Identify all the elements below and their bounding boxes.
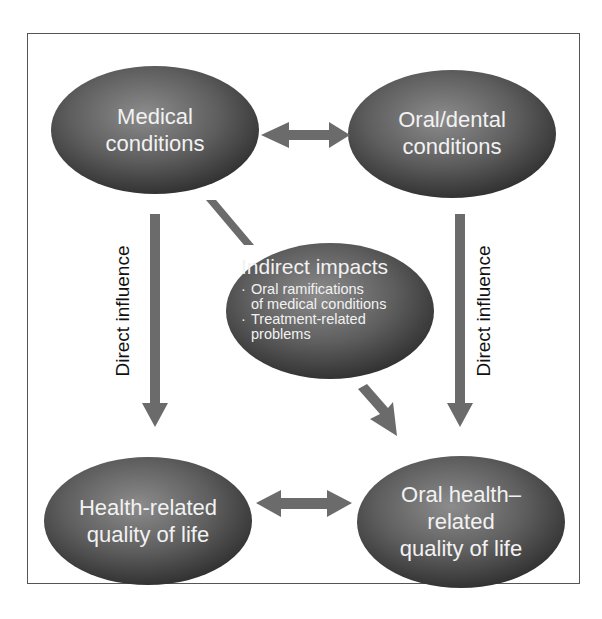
oral-dental-line2: conditions [352,133,552,160]
medical-line2: conditions [55,130,255,157]
bullet-1-line1: Oral ramifications [251,282,431,297]
double-arrow-top [261,122,350,148]
medical-conditions-label: Medical conditions [55,103,255,157]
indirect-impacts-list: Oral ramifications of medical conditions… [241,282,431,342]
hrqol-line1: Health-related [48,494,248,521]
bullet-1-line2: of medical conditions [251,297,431,312]
oral-dental-conditions-label: Oral/dental conditions [352,106,552,160]
ohrqol-line2: related [361,508,561,535]
health-related-qol-label: Health-related quality of life [48,494,248,548]
direct-influence-right-label: Direct influence [473,241,495,381]
indirect-impacts-title: Indirect impacts [241,255,431,279]
indirect-impacts-label: Indirect impacts Oral ramifications of m… [241,255,431,342]
hrqol-line2: quality of life [48,521,248,548]
arrow-direct-influence-left [142,214,168,427]
arrow-direct-influence-right [447,214,473,427]
double-arrow-bottom [256,490,352,517]
bullet-2-line1: Treatment-related [251,312,431,327]
direct-influence-left-label: Direct influence [112,241,134,381]
oral-health-related-qol-label: Oral health– related quality of life [361,481,561,562]
bullet-2-line2: problems [251,327,431,342]
connector-medical-to-indirect [206,200,254,245]
oral-dental-line1: Oral/dental [352,106,552,133]
arrow-indirect-to-ohrqol [358,384,397,436]
medical-line1: Medical [55,103,255,130]
indirect-bullet-2: Treatment-related problems [241,312,431,342]
ohrqol-line1: Oral health– [361,481,561,508]
indirect-bullet-1: Oral ramifications of medical conditions [241,282,431,312]
ohrqol-line3: quality of life [361,535,561,562]
